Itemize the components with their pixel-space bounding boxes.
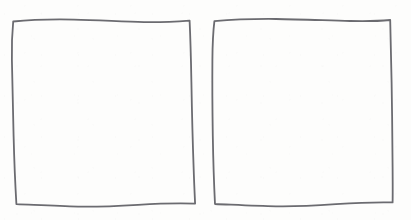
square-left (12, 19, 195, 206)
sketch-layer (0, 0, 411, 220)
drawing-canvas (0, 0, 411, 220)
square-right (212, 19, 392, 207)
